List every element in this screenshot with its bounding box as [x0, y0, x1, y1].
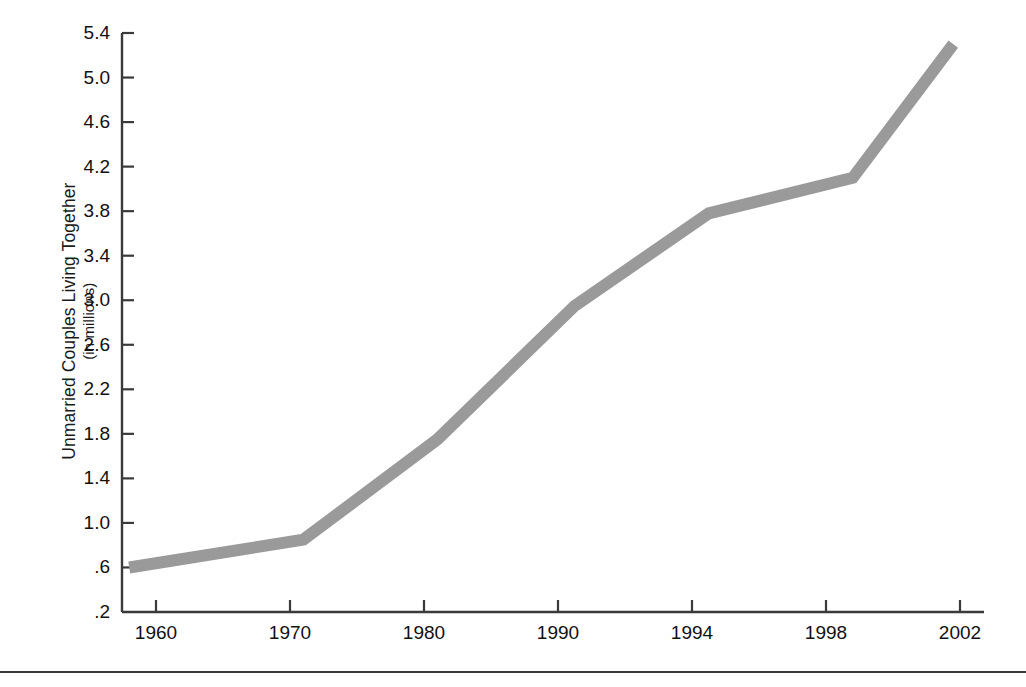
x-axis-tick-marks	[156, 600, 960, 612]
line-chart-figure: Unmarried Couples Living Together (in mi…	[0, 0, 1026, 687]
x-tick-label: 1998	[805, 622, 847, 644]
x-tick-label: 1994	[671, 622, 713, 644]
chart-page: Unmarried Couples Living Together (in mi…	[0, 0, 1026, 687]
x-tick-label: 1990	[537, 622, 579, 644]
x-tick-label: 1970	[269, 622, 311, 644]
x-tick-label: 2002	[939, 622, 981, 644]
y-axis-tick-marks	[122, 33, 134, 567]
x-tick-label: 1980	[403, 622, 445, 644]
page-separator-rule	[0, 671, 1026, 673]
plot-area	[0, 0, 1026, 687]
data-series-line	[129, 44, 953, 567]
x-tick-label: 1960	[135, 622, 177, 644]
